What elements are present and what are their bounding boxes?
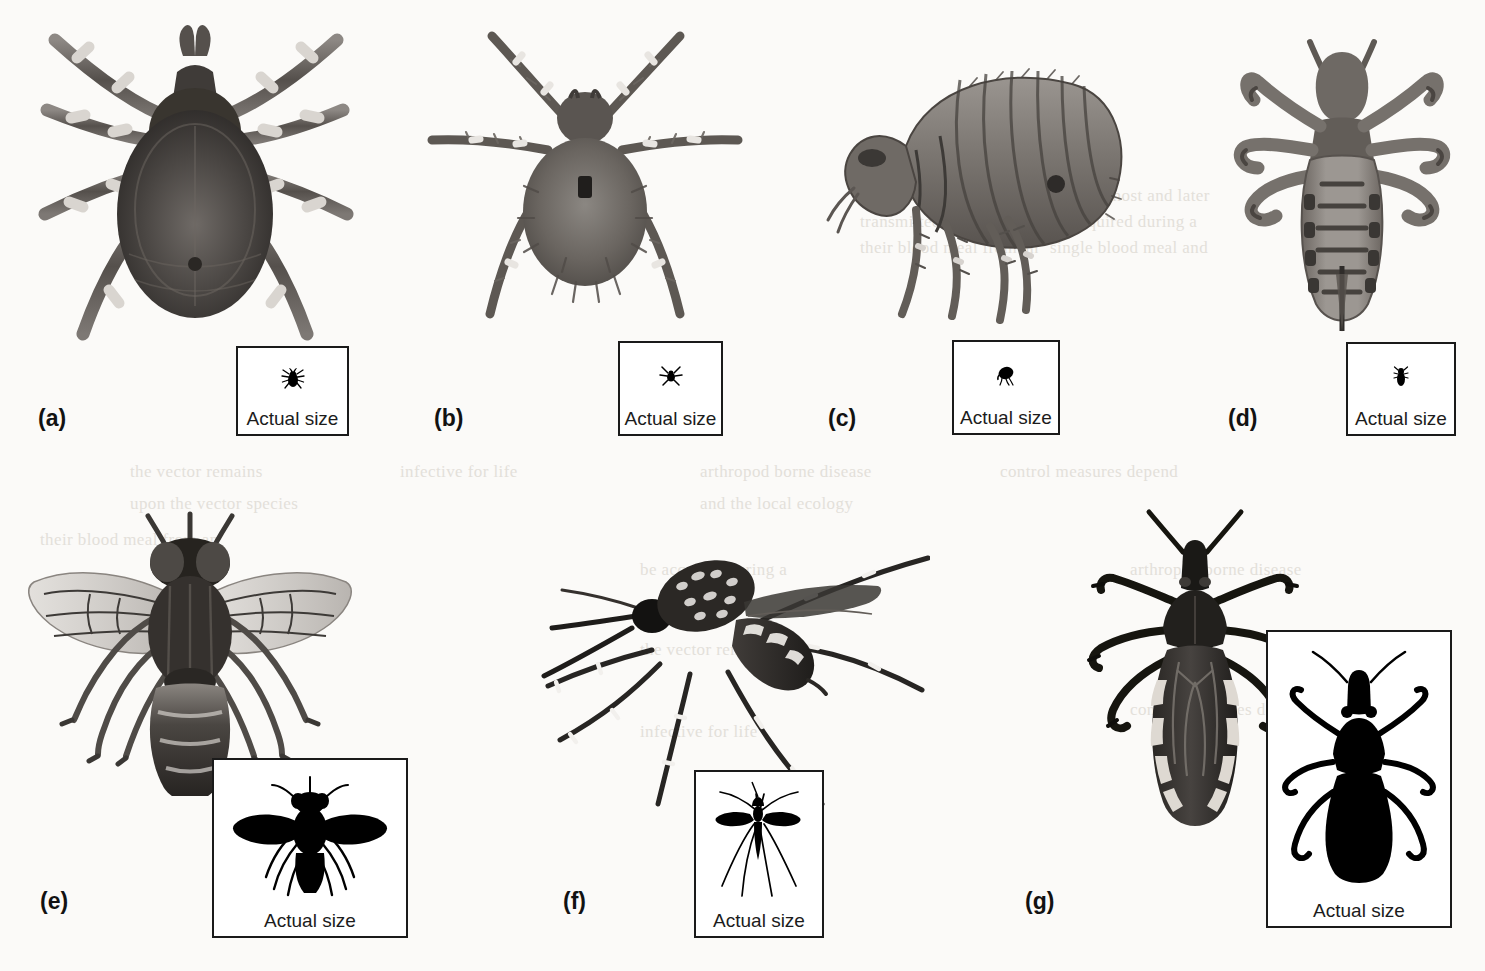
triatomine-silhouette <box>1268 632 1450 901</box>
ghost-text: arthropod borne disease <box>700 462 872 482</box>
panel-g: Actual size (g) <box>970 490 1485 960</box>
inset-actual-size-f: Actual size <box>694 770 824 938</box>
panel-label-g: (g) <box>1025 888 1054 915</box>
inset-actual-size-d: Actual size <box>1346 342 1456 436</box>
tick-specimen-photo <box>25 14 365 344</box>
inset-actual-size-b: Actual size <box>618 341 723 436</box>
inset-caption: Actual size <box>1313 901 1405 926</box>
mite-silhouette <box>620 343 721 409</box>
panel-c: Actual size (c) <box>800 0 1200 460</box>
mite-specimen-photo <box>420 22 750 344</box>
ghost-text: control measures depend <box>1000 462 1178 482</box>
inset-caption: Actual size <box>247 409 339 434</box>
inset-caption: Actual size <box>713 911 805 936</box>
panel-label-d: (d) <box>1228 405 1257 432</box>
inset-caption: Actual size <box>625 409 717 434</box>
louse-silhouette <box>1348 344 1454 409</box>
mosquito-silhouette <box>696 772 822 911</box>
panel-e: Actual size (e) <box>0 490 430 960</box>
panel-label-e: (e) <box>40 888 68 915</box>
inset-actual-size-g: Actual size <box>1266 630 1452 928</box>
flea-silhouette <box>954 342 1058 408</box>
inset-actual-size-a: Actual size <box>236 346 349 436</box>
panel-d: Actual size (d) <box>1200 0 1485 460</box>
louse-specimen-photo <box>1210 26 1475 341</box>
inset-actual-size-c: Actual size <box>952 340 1060 435</box>
inset-actual-size-e: Actual size <box>212 758 408 938</box>
fly-silhouette <box>214 760 406 911</box>
figure-plate: the same way that other transmitted by t… <box>0 0 1485 971</box>
panel-a: Actual size (a) <box>0 0 400 460</box>
panel-b: Actual size (b) <box>400 0 800 460</box>
panel-label-f: (f) <box>563 888 586 915</box>
tick-silhouette <box>238 348 347 409</box>
flea-specimen-photo <box>810 38 1140 338</box>
ghost-text: infective for life <box>400 462 518 482</box>
panel-label-c: (c) <box>828 405 856 432</box>
inset-caption: Actual size <box>264 911 356 936</box>
panel-label-a: (a) <box>38 405 66 432</box>
inset-caption: Actual size <box>960 408 1052 433</box>
panel-label-b: (b) <box>434 405 463 432</box>
inset-caption: Actual size <box>1355 409 1447 434</box>
tsetse-fly-specimen-photo <box>20 506 360 796</box>
panel-f: Actual size (f) <box>430 490 970 960</box>
ghost-text: the vector remains <box>130 462 263 482</box>
